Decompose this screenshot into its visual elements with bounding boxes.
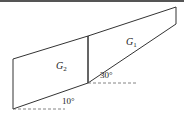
diagram-canvas: G2 G1 30° 10° xyxy=(0,0,184,119)
label-g2: G2 xyxy=(56,60,67,73)
region-g2-outline xyxy=(13,36,88,109)
angle-label-10: 10° xyxy=(62,96,75,106)
angle-label-30: 30° xyxy=(100,70,113,80)
label-g1: G1 xyxy=(126,36,137,49)
